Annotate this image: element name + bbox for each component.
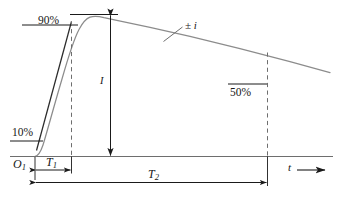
t1-subscript: 1 xyxy=(53,160,57,170)
t1-label: T1 xyxy=(46,156,57,170)
time-axis-label: t xyxy=(288,162,291,173)
t2-base: T xyxy=(148,167,155,181)
origin-subscript: 1 xyxy=(22,162,26,172)
current-label: ± i xyxy=(185,20,197,31)
level-10-label: 10% xyxy=(12,127,33,139)
impulse-current-curve xyxy=(35,16,331,156)
origin-label: O1 xyxy=(13,158,26,172)
level-90-label: 90% xyxy=(38,15,59,27)
impulse-waveform-figure: 90% 10% 50% ± i I O1 T1 T2 t xyxy=(0,0,344,199)
t1-base: T xyxy=(46,155,53,169)
level-50-label: 50% xyxy=(230,87,251,99)
t2-label: T2 xyxy=(148,168,159,182)
t2-subscript: 2 xyxy=(155,172,159,182)
front-slope-chord xyxy=(37,22,72,151)
origin-base: O xyxy=(13,157,22,171)
peak-amplitude-label: I xyxy=(100,76,104,87)
